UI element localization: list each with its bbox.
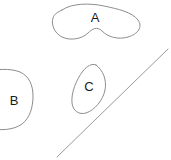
diagram-canvas: A B C — [0, 0, 171, 160]
region-label-b: B — [10, 93, 19, 108]
region-label-a: A — [91, 10, 100, 25]
diagonal-divider-line[interactable] — [57, 49, 168, 157]
region-label-c: C — [84, 79, 93, 94]
diagram-svg: A B C — [0, 0, 171, 160]
